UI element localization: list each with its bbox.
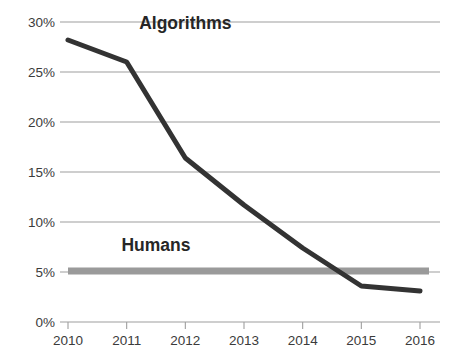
y-axis-tick-label: 10% (28, 215, 55, 230)
y-axis-tick-label: 25% (28, 65, 55, 80)
x-axis-tick-label: 2010 (53, 333, 83, 348)
line-chart: 30%25%20%15%10%5%0% 20102011201220132014… (0, 0, 460, 362)
y-axis-tick-label: 20% (28, 115, 55, 130)
x-axis-tick-labels: 2010201120122013201420152016 (53, 333, 435, 348)
series-label-algorithms: Algorithms (139, 13, 232, 33)
x-axis-tick-label: 2014 (288, 333, 319, 348)
y-axis-tick-label: 15% (28, 165, 55, 180)
series-label-humans: Humans (121, 235, 190, 255)
y-axis-tick-label: 5% (35, 265, 55, 280)
y-axis-tick-label: 0% (35, 315, 55, 330)
x-axis-tick-label: 2011 (112, 333, 141, 348)
y-axis-tick-label: 30% (28, 15, 55, 30)
x-axis-tick-marks (68, 322, 420, 329)
x-axis-tick-label: 2013 (229, 333, 259, 348)
x-axis-tick-label: 2015 (346, 333, 376, 348)
x-axis-tick-label: 2012 (170, 333, 200, 348)
y-axis-tick-labels: 30%25%20%15%10%5%0% (28, 15, 55, 330)
gridline-group (60, 22, 440, 322)
x-axis-tick-label: 2016 (405, 333, 435, 348)
chart-container: 30%25%20%15%10%5%0% 20102011201220132014… (0, 0, 460, 362)
